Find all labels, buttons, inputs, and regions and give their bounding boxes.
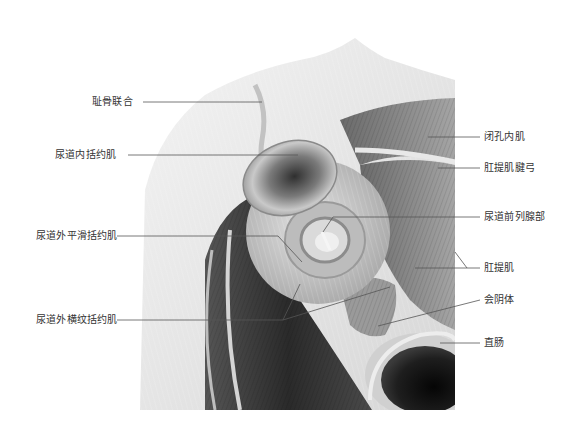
label-obturator-internus: 闭孔内肌 <box>484 131 525 143</box>
label-rectum: 直肠 <box>484 337 504 349</box>
label-external-striated-urethral-sphincter: 尿道外横纹括约肌 <box>36 314 118 326</box>
anatomy-diagram: 耻骨联合 尿道内括约肌 尿道外平滑括约肌 尿道外横纹括约肌 闭孔内肌 肛提肌腱弓… <box>0 0 569 432</box>
label-internal-urethral-sphincter: 尿道内括约肌 <box>55 149 116 161</box>
label-external-smooth-urethral-sphincter: 尿道外平滑括约肌 <box>36 230 118 242</box>
label-levator-ani: 肛提肌 <box>484 262 515 274</box>
label-tendinous-arch-levator-ani: 肛提肌腱弓 <box>484 162 535 174</box>
label-perineal-body: 会阴体 <box>484 294 515 306</box>
label-prostatic-urethra: 尿道前列腺部 <box>484 211 545 223</box>
label-pubic-symphysis: 耻骨联合 <box>92 96 133 108</box>
